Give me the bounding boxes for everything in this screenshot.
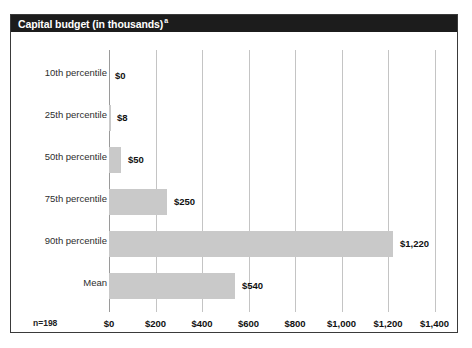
bar-50th-percentile <box>109 147 121 173</box>
chart-title-footnote-marker: a <box>164 17 168 24</box>
bar-value-mean: $540 <box>242 280 263 291</box>
xtick-label-1200: $1,200 <box>373 318 402 329</box>
bar-90th-percentile <box>109 231 393 257</box>
bar-75th-percentile <box>109 189 167 215</box>
gridline-800 <box>295 50 296 312</box>
bar-value-75th-percentile: $250 <box>174 196 195 207</box>
xtick-label-600: $600 <box>238 318 259 329</box>
gridline-1200 <box>388 50 389 312</box>
bar-value-90th-percentile: $1,220 <box>400 238 429 249</box>
xtick-label-1000: $1,000 <box>327 318 356 329</box>
chart-title-bar: Capital budget (in thousands)a <box>11 15 457 32</box>
gridline-600 <box>249 50 250 312</box>
bar-25th-percentile <box>109 105 111 131</box>
xtick-label-200: $200 <box>145 318 166 329</box>
xtick-label-400: $400 <box>191 318 212 329</box>
bar-mean <box>109 273 235 299</box>
gridline-1400 <box>435 50 436 312</box>
category-label-mean: Mean <box>0 277 107 288</box>
category-label-25th-percentile: 25th percentile <box>0 109 107 120</box>
category-label-90th-percentile: 90th percentile <box>0 235 107 246</box>
bar-value-25th-percentile: $8 <box>117 112 128 123</box>
category-label-75th-percentile: 75th percentile <box>0 193 107 204</box>
sample-size-label: n=198 <box>33 318 57 328</box>
xtick-label-0: $0 <box>104 318 115 329</box>
category-label-50th-percentile: 50th percentile <box>0 151 107 162</box>
bar-value-10th-percentile: $0 <box>115 70 126 81</box>
bar-value-50th-percentile: $50 <box>128 154 144 165</box>
chart-title: Capital budget (in thousands)a <box>18 17 168 30</box>
xtick-label-1400: $1,400 <box>420 318 449 329</box>
plot-area: 10th percentile 25th percentile 50th per… <box>11 32 457 334</box>
chart-frame: Capital budget (in thousands)a 10th perc… <box>10 14 458 333</box>
xtick-label-800: $800 <box>284 318 305 329</box>
category-label-10th-percentile: 10th percentile <box>0 67 107 78</box>
chart-title-label: Capital budget (in thousands) <box>18 18 163 30</box>
gridline-1000 <box>342 50 343 312</box>
